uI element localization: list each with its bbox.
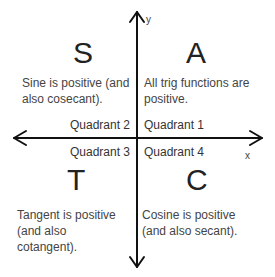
quadrant-4-description: Cosine is positive (and also secant). — [142, 207, 252, 239]
quadrant-2-letter: S — [73, 38, 93, 68]
quadrant-1-label: Quadrant 1 — [144, 118, 204, 132]
y-axis-label: y — [146, 14, 151, 25]
quadrant-1-description: All trig functions are positive. — [144, 75, 264, 107]
x-axis-label: x — [245, 150, 250, 161]
quadrant-2-description: Sine is positive (and also cosecant). — [22, 75, 134, 107]
quadrant-4-letter: C — [186, 165, 208, 195]
quadrant-3-description: Tangent is positive (and also cotangent)… — [17, 207, 121, 255]
quadrant-2-label: Quadrant 2 — [70, 118, 130, 132]
quadrant-3-label: Quadrant 3 — [70, 145, 130, 159]
quadrant-4-label: Quadrant 4 — [144, 145, 204, 159]
quadrant-3-letter: T — [67, 165, 85, 195]
quadrant-1-letter: A — [186, 38, 206, 68]
